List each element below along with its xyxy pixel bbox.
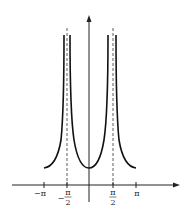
tick-label-neg-half-pi-sign: − (58, 194, 65, 203)
tick-label-pos-half-pi-denominator: 2 (110, 198, 115, 207)
tick-label-pos-half-pi-numerator: π (110, 188, 115, 197)
curve-right-branch (116, 35, 136, 168)
tick-label-neg-pi: −π (34, 189, 46, 198)
sec-function-graph: −π − π 2 π 2 π (0, 0, 183, 214)
x-axis-arrow-icon (173, 183, 180, 188)
tick-label-pos-pi: π (134, 189, 139, 198)
y-axis-arrow-icon (87, 15, 92, 22)
curve-left-branch (44, 35, 64, 168)
tick-label-neg-half-pi-numerator: π (65, 188, 70, 197)
tick-label-neg-half-pi-denominator: 2 (65, 198, 70, 207)
